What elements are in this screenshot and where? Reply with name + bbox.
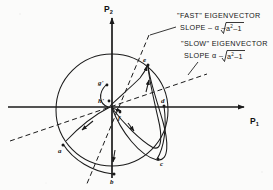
origin-to-a-curve [66, 107, 110, 141]
origin-to-e-curve [110, 66, 147, 106]
slow-leader-line [188, 62, 198, 75]
fast-leader-line [150, 27, 176, 35]
slow-annotation-line2: SLOPE α – [184, 51, 223, 60]
slow-radical: a2–1 [222, 51, 245, 62]
point-b-dot [113, 173, 116, 176]
dashed-eigenvector-lines [10, 35, 207, 186]
fast-radicand: a2–1 [226, 24, 242, 33]
point-label-gprime: g' [97, 79, 104, 87]
trajectory-curves [63, 66, 167, 174]
point-f-dot [119, 111, 122, 114]
figure-canvas: P2 P1 [0, 0, 273, 190]
fast-annotation-line2: SLOPE – α – [180, 23, 226, 32]
point-gprime-dot [106, 84, 109, 87]
y-axis-label: P2 [104, 4, 113, 15]
slow-annotation-line1: "SLOW" EIGENVECTOR [181, 39, 268, 48]
point-label-e: e [143, 56, 146, 64]
point-label-c: c [160, 160, 163, 168]
x-axis-label: P1 [250, 116, 259, 127]
a-to-b-curve [63, 144, 113, 174]
point-label-d: d [161, 97, 165, 105]
fast-annotation-line1: "FAST" EIGENVECTOR [177, 11, 261, 20]
point-label-b: b [110, 178, 114, 186]
point-a-dot [62, 144, 65, 147]
fast-eigenvector-annotation: "FAST" EIGENVECTOR SLOPE – α – a2–1 [150, 11, 261, 35]
slow-eigenvector-annotation: "SLOW" EIGENVECTOR SLOPE α – a2–1 [181, 39, 268, 75]
point-label-a: a [58, 147, 62, 155]
point-hprime-dot [108, 100, 111, 103]
point-e-dot [147, 64, 150, 67]
eigenvector-phase-diagram: P2 P1 [0, 0, 273, 190]
slow-radicand: a2–1 [227, 52, 243, 61]
point-label-hprime: h' [98, 97, 104, 105]
